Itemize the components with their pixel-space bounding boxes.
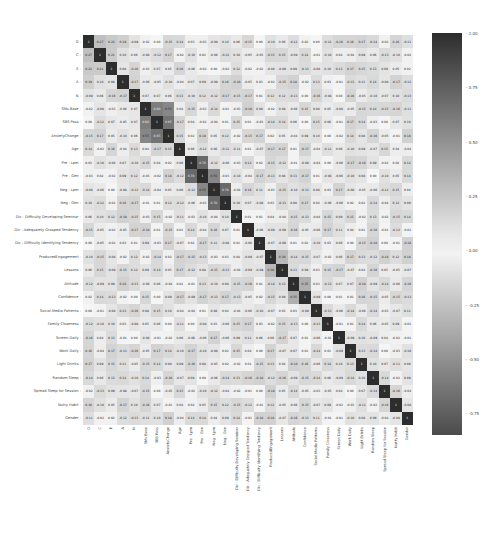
heatmap-cell: 0.01 (129, 237, 140, 250)
heatmap-cell: 0.09 (197, 75, 208, 88)
heatmap-cell: 0.09 (117, 169, 128, 182)
heatmap-cell: 0.06 (83, 264, 94, 277)
heatmap-cell: -0.04 (311, 156, 322, 169)
heatmap-cell: -0.08 (254, 196, 265, 209)
heatmap-cell: 0.13 (333, 62, 344, 75)
heatmap-cell: -0.12 (94, 196, 105, 209)
heatmap-cell: -0.03 (208, 250, 219, 263)
heatmap-cell: 0.30 (276, 250, 287, 263)
heatmap-cell: 0.06 (129, 129, 140, 142)
heatmap-cell: -0.09 (299, 156, 310, 169)
heatmap-cell: -0.18 (140, 223, 151, 236)
heatmap-cell: 0.05 (322, 102, 333, 115)
x-tick-label: Family Closeness (326, 427, 330, 458)
heatmap-cell: -0.16 (242, 371, 253, 384)
heatmap-cell: 0.15 (345, 210, 356, 223)
heatmap-cell: -0.16 (129, 62, 140, 75)
heatmap-cell: 0.17 (83, 358, 94, 371)
heatmap-cell: -0.16 (345, 89, 356, 102)
heatmap-cell: -0.17 (333, 264, 344, 277)
heatmap-cell: 0.01 (174, 277, 185, 290)
heatmap-cell: -0.06 (333, 156, 344, 169)
heatmap-cell: 0.06 (174, 156, 185, 169)
heatmap-cell: -0.16 (163, 371, 174, 384)
heatmap-cell: -0.06 (311, 331, 322, 344)
heatmap-cell: -0.03 (197, 102, 208, 115)
heatmap-cell: 0.08 (106, 75, 117, 88)
heatmap-cell: -0.02 (265, 102, 276, 115)
heatmap-cell: 0.04 (390, 143, 401, 156)
heatmap-cell: -0.13 (311, 317, 322, 330)
heatmap-cell: 0.12 (220, 398, 231, 411)
x-tick-label: Dic : Adequately Grasped Tendency (246, 427, 250, 491)
heatmap-cell: -0.12 (379, 183, 390, 196)
heatmap-cell: 0.09 (140, 237, 151, 250)
heatmap-cell: 0.21 (106, 48, 117, 61)
heatmap-cell: -0.15 (276, 75, 287, 88)
heatmap-cell: -0.13 (345, 75, 356, 88)
heatmap-cell: 0.08 (356, 129, 367, 142)
heatmap-cell: 0.14 (402, 169, 413, 182)
heatmap-cell: -0.10 (288, 183, 299, 196)
heatmap-cell: 0.70 (197, 156, 208, 169)
heatmap-cell: -0.16 (185, 358, 196, 371)
heatmap-cell: 0.05 (276, 385, 287, 398)
heatmap-cell: 0.07 (140, 89, 151, 102)
heatmap-cell: -0.16 (402, 277, 413, 290)
heatmap-cell: -0.01 (333, 75, 344, 88)
heatmap-cell: -0.12 (174, 196, 185, 209)
heatmap-cell: -0.04 (220, 385, 231, 398)
heatmap-cell: 0.06 (83, 210, 94, 223)
heatmap-cell: 0.10 (322, 62, 333, 75)
y-tick-label: Work Daily (59, 349, 81, 353)
heatmap-cell: -0.15 (288, 210, 299, 223)
heatmap-cell: 0.27 (94, 35, 105, 48)
heatmap-cell: -0.14 (311, 344, 322, 357)
heatmap-cell: 0.13 (345, 358, 356, 371)
heatmap-cell: -0.01 (333, 116, 344, 129)
heatmap-cell: 0.10 (311, 129, 322, 142)
heatmap-cell: -0.06 (140, 277, 151, 290)
heatmap-cell: -0.16 (288, 412, 299, 425)
heatmap-cell: 0.07 (129, 116, 140, 129)
heatmap-cell: -0.06 (288, 102, 299, 115)
heatmap-cell: 0.14 (83, 143, 94, 156)
x-tick-label: ProducedEngagement (269, 427, 273, 467)
heatmap-cell: 0.14 (367, 75, 378, 88)
heatmap-cell: 0.09 (367, 412, 378, 425)
heatmap-cell: -0.07 (402, 264, 413, 277)
heatmap-cell: -0.08 (117, 385, 128, 398)
heatmap-cell: -0.11 (174, 210, 185, 223)
x-tick-label: Random Sleep (371, 427, 375, 453)
heatmap-cell: -0.02 (106, 169, 117, 182)
heatmap-cell: -0.18 (231, 75, 242, 88)
heatmap-cell: -0.07 (265, 304, 276, 317)
heatmap-cell: -0.04 (231, 264, 242, 277)
x-tick-label: C (98, 427, 102, 430)
heatmap-cell: 0.00 (299, 317, 310, 330)
heatmap-cell: 0.01 (242, 143, 253, 156)
heatmap-cell: -0.02 (83, 385, 94, 398)
heatmap-cell: -0.16 (379, 398, 390, 411)
heatmap-cell: 0.04 (185, 116, 196, 129)
x-tick-label: N (132, 427, 136, 430)
heatmap-cell: 0.08 (311, 102, 322, 115)
heatmap-cell: -0.13 (299, 183, 310, 196)
heatmap-cell: 0.17 (94, 129, 105, 142)
heatmap-cell: 0.30 (265, 264, 276, 277)
heatmap-cell: -0.08 (379, 75, 390, 88)
heatmap-cell: -0.07 (367, 143, 378, 156)
heatmap-cell: -0.15 (265, 291, 276, 304)
heatmap-cell: 0.03 (265, 196, 276, 209)
heatmap-cell: 0.04 (402, 183, 413, 196)
heatmap-cell: 0.17 (163, 237, 174, 250)
heatmap-cell: 0.03 (254, 317, 265, 330)
heatmap-cell: 0.11 (356, 75, 367, 88)
heatmap-cell: -0.14 (208, 102, 219, 115)
heatmap-cell: -0.04 (402, 143, 413, 156)
heatmap-cell: 0.04 (208, 412, 219, 425)
heatmap-cell: -0.02 (231, 358, 242, 371)
heatmap-cell: -0.03 (265, 183, 276, 196)
heatmap-cell: -0.06 (390, 277, 401, 290)
heatmap-cell: 0.09 (106, 277, 117, 290)
